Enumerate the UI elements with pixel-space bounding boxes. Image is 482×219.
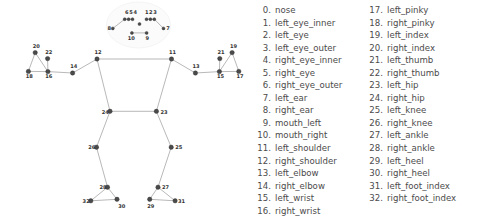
landmark-node-left_knee[interactable] <box>169 145 173 149</box>
landmark-number-mouth_left: 9 <box>145 35 149 41</box>
landmark-node-right_ear[interactable] <box>111 27 114 30</box>
legend-item-index: 28. <box>367 142 383 155</box>
legend-item: 23.left_hip <box>367 79 482 92</box>
landmark-node-right_heel[interactable] <box>115 197 119 201</box>
legend-item-index: 31. <box>367 180 383 193</box>
legend-item-label: right_knee <box>383 117 433 130</box>
legend-item-index: 15. <box>255 192 271 205</box>
legend-column-right: 17.left_pinky18.right_pinky19.left_index… <box>367 4 482 219</box>
landmark-node-left_elbow[interactable] <box>193 71 197 75</box>
landmark-number-right_wrist: 16 <box>45 73 53 79</box>
legend-item-label: right_pinky <box>383 17 435 30</box>
legend-item-index: 5. <box>255 67 271 80</box>
landmark-number-right_thumb: 22 <box>45 49 53 55</box>
legend-item-index: 27. <box>367 129 383 142</box>
legend-item-index: 9. <box>255 117 271 130</box>
skeleton-edge-right_pinky-to-right_index <box>28 53 35 72</box>
landmark-legend-panel: 0.nose1.left_eye_inner2.left_eye3.left_e… <box>255 0 482 219</box>
landmark-number-left_heel: 29 <box>147 203 155 209</box>
legend-item-label: right_eye <box>271 67 315 80</box>
legend-item: 0.nose <box>255 4 367 17</box>
legend-item-label: left_shoulder <box>271 142 331 155</box>
landmark-number-left_knee: 25 <box>175 144 183 150</box>
landmark-node-left_index[interactable] <box>230 50 234 54</box>
landmark-node-right_elbow[interactable] <box>70 71 74 75</box>
skeleton-diagram-panel: 1234567891011121314151617181920212223242… <box>0 0 255 219</box>
landmark-node-right_shoulder[interactable] <box>95 57 99 61</box>
legend-item-index: 17. <box>367 4 383 17</box>
landmark-number-left_ankle: 27 <box>162 184 170 190</box>
legend-item: 1.left_eye_inner <box>255 17 367 30</box>
legend-item: 26.right_knee <box>367 117 482 130</box>
skeleton-edge-right_wrist-to-right_index <box>35 53 48 72</box>
legend-item: 25.left_knee <box>367 104 482 117</box>
legend-item-index: 3. <box>255 42 271 55</box>
skeleton-edge-left_wrist-to-left_index <box>219 53 232 72</box>
landmark-number-right_foot_index: 32 <box>83 198 91 204</box>
skeleton-edge-right_hip-to-right_knee <box>97 111 111 147</box>
legend-item-label: right_foot_index <box>383 192 456 205</box>
landmark-node-right_eye[interactable] <box>127 18 130 21</box>
landmark-node-left_eye_outer[interactable] <box>153 18 156 21</box>
legend-item-label: left_elbow <box>271 167 319 180</box>
legend-item-label: left_knee <box>383 104 426 117</box>
legend-item-index: 29. <box>367 155 383 168</box>
legend-item-label: left_eye <box>271 29 309 42</box>
landmark-node-right_eye_outer[interactable] <box>123 18 126 21</box>
legend-item: 27.left_ankle <box>367 129 482 142</box>
landmark-number-left_eye_outer: 3 <box>153 9 157 15</box>
legend-item-label: right_elbow <box>271 180 325 193</box>
landmark-number-right_elbow: 14 <box>70 63 78 69</box>
landmark-node-left_ankle[interactable] <box>156 185 160 189</box>
landmark-node-left_ear[interactable] <box>162 27 165 30</box>
landmark-node-right_index[interactable] <box>33 50 37 54</box>
legend-item-index: 25. <box>367 104 383 117</box>
skeleton-edge-left_pinky-to-left_index <box>232 53 239 72</box>
landmark-number-right_eye_outer: 6 <box>125 9 129 15</box>
legend-item-index: 8. <box>255 104 271 117</box>
landmark-node-left_heel[interactable] <box>148 197 152 201</box>
legend-item: 13.left_elbow <box>255 167 367 180</box>
landmark-node-left_hip[interactable] <box>154 109 158 113</box>
landmark-node-right_eye_inner[interactable] <box>131 18 134 21</box>
landmark-node-nose[interactable] <box>138 23 141 26</box>
legend-item: 8.right_ear <box>255 104 367 117</box>
legend-item-label: left_pinky <box>383 4 428 17</box>
legend-column-left: 0.nose1.left_eye_inner2.left_eye3.left_e… <box>255 4 367 219</box>
landmark-node-right_thumb[interactable] <box>45 56 49 60</box>
landmark-number-left_pinky: 17 <box>237 73 245 79</box>
legend-item-index: 0. <box>255 4 271 17</box>
landmark-number-right_index: 20 <box>33 43 41 49</box>
landmark-node-left_foot_index[interactable] <box>173 199 177 203</box>
legend-item-label: left_ear <box>271 92 307 105</box>
skeleton-edge-left_hip-to-left_knee <box>156 111 171 147</box>
landmark-number-right_ear: 8 <box>108 25 112 31</box>
legend-item: 2.left_eye <box>255 29 367 42</box>
legend-item: 18.right_pinky <box>367 17 482 30</box>
legend-item-label: right_ear <box>271 104 314 117</box>
landmark-node-left_shoulder[interactable] <box>169 57 173 61</box>
landmark-number-left_wrist: 15 <box>217 73 225 79</box>
legend-item-label: left_wrist <box>271 192 314 205</box>
legend-item: 12.right_shoulder <box>255 155 367 168</box>
legend-item-label: left_eye_outer <box>271 42 336 55</box>
legend-item-label: mouth_left <box>271 117 321 130</box>
legend-item-index: 18. <box>367 17 383 30</box>
pose-landmark-reference: 1234567891011121314151617181920212223242… <box>0 0 482 219</box>
legend-item: 16.right_wrist <box>255 205 367 218</box>
legend-item: 7.left_ear <box>255 92 367 105</box>
landmark-node-left_eye_inner[interactable] <box>145 18 148 21</box>
legend-item-index: 24. <box>367 92 383 105</box>
legend-item: 19.left_index <box>367 29 482 42</box>
legend-item-index: 22. <box>367 67 383 80</box>
landmark-node-left_eye[interactable] <box>149 18 152 21</box>
legend-item-index: 1. <box>255 17 271 30</box>
landmark-node-left_thumb[interactable] <box>218 56 222 60</box>
legend-item-index: 30. <box>367 167 383 180</box>
legend-item: 22.right_thumb <box>367 67 482 80</box>
landmark-number-left_elbow: 13 <box>193 63 201 69</box>
legend-item: 31.left_foot_index <box>367 180 482 193</box>
legend-item-index: 20. <box>367 42 383 55</box>
legend-item: 6.right_eye_outer <box>255 79 367 92</box>
legend-item-label: right_heel <box>383 167 430 180</box>
